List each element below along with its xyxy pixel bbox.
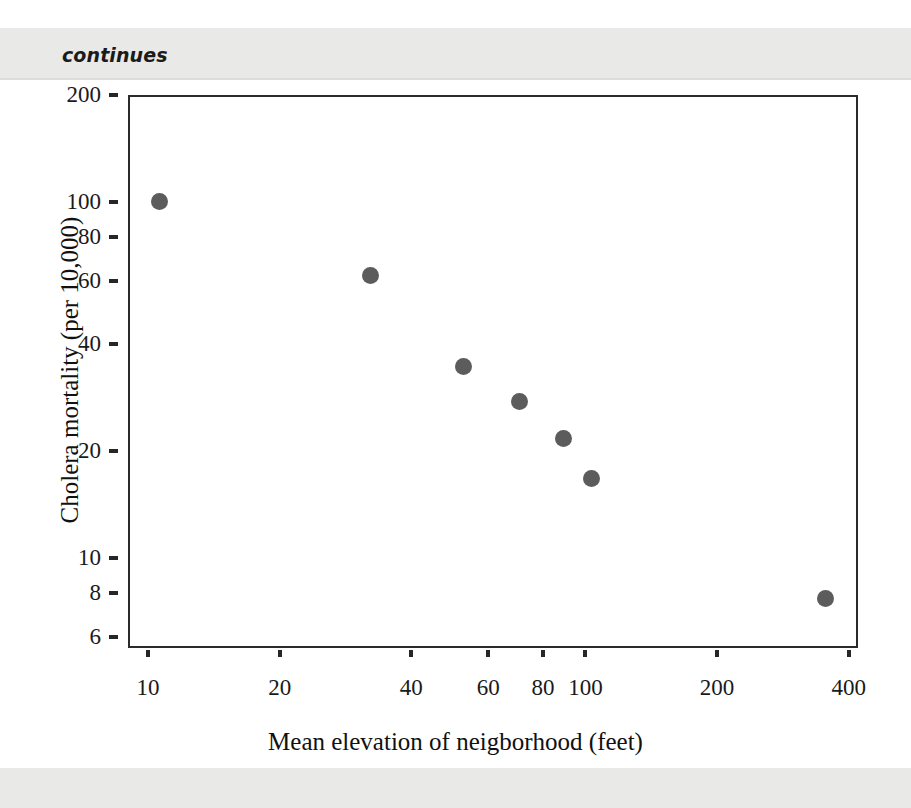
x-axis-tick [847,650,851,657]
x-axis-tick-label: 200 [677,676,757,699]
y-axis-tick [109,279,118,283]
x-axis-tick-label: 40 [371,676,451,699]
x-axis-tick [715,650,719,657]
x-axis-tick [541,650,545,657]
data-point [583,470,600,487]
x-axis-tick [278,650,282,657]
page-header-band-edge [0,78,911,80]
data-point [151,193,168,210]
y-axis-tick [109,556,118,560]
x-axis-title: Mean elevation of neigborhood (feet) [0,728,911,756]
y-axis-tick [109,449,118,453]
y-axis-tick [109,635,118,639]
data-point [511,393,528,410]
x-axis-tick [146,650,150,657]
continues-marginalia: continues [62,44,168,66]
y-axis-title: Cholera mortality (per 10,000) [56,90,84,650]
x-axis-tick [486,650,490,657]
x-axis-tick-label: 400 [809,676,889,699]
x-axis-tick-label: 10 [108,676,188,699]
x-axis-tick-label: 20 [240,676,320,699]
scatter-plot-area [128,95,858,648]
x-axis-tick [409,650,413,657]
scanned-page: continues 200100806040201086 10204060801… [0,0,911,808]
data-point [817,590,834,607]
page-footer-band [0,768,911,808]
y-axis-tick [109,93,118,97]
y-axis-tick [109,342,118,346]
y-axis-tick [109,235,118,239]
y-axis-tick [109,591,118,595]
x-axis-tick-label: 100 [545,676,625,699]
x-axis-tick [583,650,587,657]
data-point [362,267,379,284]
y-axis-tick [109,200,118,204]
data-point [455,358,472,375]
data-point [555,430,572,447]
